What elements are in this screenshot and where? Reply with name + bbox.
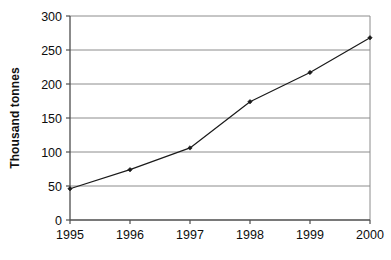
- x-tick-label: 1996: [116, 228, 144, 242]
- x-tick-label: 2000: [356, 228, 384, 242]
- y-tick-label: 150: [41, 112, 62, 126]
- chart-canvas: 050100150200250300 199519961997199819992…: [0, 0, 391, 260]
- line-chart: 050100150200250300 199519961997199819992…: [0, 0, 391, 260]
- y-tick-label: 250: [41, 44, 62, 58]
- y-tick-label: 50: [48, 180, 62, 194]
- y-tick-label: 0: [55, 214, 62, 228]
- x-tick-label: 1999: [296, 228, 324, 242]
- x-tick-label: 1997: [176, 228, 204, 242]
- y-tick-label: 300: [41, 10, 62, 24]
- y-tick-label: 100: [41, 146, 62, 160]
- x-tick-label: 1998: [236, 228, 264, 242]
- y-axis-title: Thousand tonnes: [8, 67, 22, 169]
- y-tick-label: 200: [41, 78, 62, 92]
- x-tick-label: 1995: [56, 228, 84, 242]
